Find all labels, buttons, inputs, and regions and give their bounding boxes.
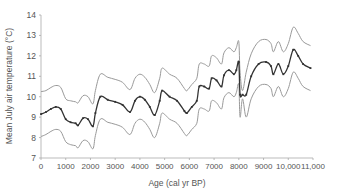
data-point-marker bbox=[99, 96, 101, 98]
data-point-marker bbox=[216, 79, 218, 81]
data-point-marker bbox=[292, 49, 294, 51]
data-point-marker bbox=[302, 63, 304, 65]
data-point-marker bbox=[169, 96, 171, 98]
y-axis: 7891011121314 bbox=[27, 10, 41, 163]
data-point-marker bbox=[245, 94, 247, 96]
data-point-marker bbox=[95, 112, 97, 114]
data-point-marker bbox=[282, 73, 284, 75]
data-point-marker bbox=[149, 106, 151, 108]
temperature-chart: 7891011121314 01000200030004000500060007… bbox=[0, 0, 339, 191]
y-tick-label: 10 bbox=[27, 92, 37, 102]
data-point-marker bbox=[184, 110, 186, 112]
data-point-marker bbox=[198, 86, 200, 88]
y-axis-label: Mean July air temperature (°C) bbox=[4, 28, 14, 144]
data-point-marker bbox=[144, 99, 146, 101]
x-tick-label: 9000 bbox=[255, 162, 273, 171]
data-point-marker bbox=[196, 100, 198, 102]
data-point-marker bbox=[238, 61, 240, 63]
data-point-marker bbox=[77, 124, 79, 126]
data-point-marker bbox=[239, 94, 241, 96]
x-axis-label: Age (cal yr BP) bbox=[148, 178, 205, 188]
data-point-marker bbox=[45, 111, 47, 113]
data-point-marker bbox=[154, 114, 156, 116]
x-tick-label: 8000 bbox=[230, 162, 248, 171]
x-tick-label: 5000 bbox=[156, 162, 174, 171]
data-point-marker bbox=[221, 86, 223, 88]
data-point-marker bbox=[191, 106, 193, 108]
data-point-marker bbox=[50, 108, 52, 110]
data-point-marker bbox=[287, 65, 289, 67]
data-point-marker bbox=[70, 121, 72, 123]
data-point-marker bbox=[176, 100, 178, 102]
data-point-marker bbox=[161, 90, 163, 92]
x-tick-label: 11,000 bbox=[301, 162, 325, 171]
data-point-marker bbox=[223, 74, 225, 76]
data-point-marker bbox=[258, 63, 260, 65]
data-point-marker bbox=[92, 125, 94, 127]
data-point-marker bbox=[60, 108, 62, 110]
data-point-marker bbox=[277, 63, 279, 65]
data-point-marker bbox=[114, 101, 116, 103]
data-point-marker bbox=[186, 112, 188, 114]
data-point-marker bbox=[270, 65, 272, 67]
data-point-marker bbox=[265, 61, 267, 63]
data-point-marker bbox=[211, 77, 213, 79]
x-tick-label: 10,000 bbox=[276, 162, 301, 171]
x-tick-label: 6000 bbox=[180, 162, 198, 171]
y-tick-label: 7 bbox=[31, 153, 36, 163]
data-point-marker bbox=[203, 86, 205, 88]
data-point-marker bbox=[159, 100, 161, 102]
data-point-marker bbox=[139, 96, 141, 98]
data-point-marker bbox=[82, 117, 84, 119]
data-point-marker bbox=[233, 73, 235, 75]
data-point-marker bbox=[40, 113, 42, 115]
data-point-marker bbox=[208, 88, 210, 90]
chart-canvas: 7891011121314 01000200030004000500060007… bbox=[0, 0, 339, 191]
data-point-marker bbox=[107, 99, 109, 101]
x-tick-label: 7000 bbox=[205, 162, 223, 171]
data-point-marker bbox=[65, 118, 67, 120]
y-tick-label: 13 bbox=[27, 30, 37, 40]
x-tick-label: 2000 bbox=[82, 162, 100, 171]
series-layer bbox=[40, 27, 311, 149]
x-tick-label: 4000 bbox=[131, 162, 149, 171]
data-point-marker bbox=[75, 122, 77, 124]
data-point-marker bbox=[134, 100, 136, 102]
data-point-marker bbox=[235, 69, 237, 71]
data-point-marker bbox=[55, 106, 57, 108]
x-tick-label: 3000 bbox=[106, 162, 124, 171]
data-point-marker bbox=[273, 73, 275, 75]
y-tick-label: 8 bbox=[31, 133, 36, 143]
data-point-marker bbox=[242, 94, 244, 96]
y-tick-label: 9 bbox=[31, 112, 36, 122]
data-point-marker bbox=[297, 55, 299, 57]
data-point-marker bbox=[122, 104, 124, 106]
x-tick-label: 0 bbox=[39, 162, 44, 171]
x-tick-label: 1000 bbox=[57, 162, 75, 171]
lower-bound-series bbox=[41, 72, 311, 149]
x-axis: 010002000300040005000600070008000900010,… bbox=[39, 158, 326, 171]
y-tick-label: 12 bbox=[27, 51, 37, 61]
data-point-marker bbox=[250, 75, 252, 77]
data-point-marker bbox=[228, 69, 230, 71]
data-point-marker bbox=[129, 111, 131, 113]
data-point-marker bbox=[310, 67, 312, 69]
y-tick-label: 14 bbox=[27, 10, 37, 20]
y-tick-label: 11 bbox=[27, 71, 36, 81]
data-point-marker bbox=[87, 118, 89, 120]
